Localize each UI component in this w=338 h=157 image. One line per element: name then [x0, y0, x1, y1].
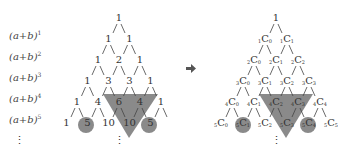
- combination-r1-k1: 1C1: [280, 34, 294, 45]
- combination-r5-k5: 5C5: [324, 118, 338, 129]
- pascal-entry-r0-k0: 1: [116, 13, 122, 23]
- combination-r4-k4: 4C4: [313, 97, 327, 108]
- pascal-entry-r2-k0: 1: [95, 55, 101, 65]
- pascal-entry-r5-k3: 10: [123, 118, 136, 128]
- combination-r2-k2: 2C2: [291, 55, 305, 66]
- pascal-entry-r4-k3: 4: [137, 97, 143, 107]
- combination-r4-k1: 4C1: [247, 97, 261, 108]
- pascal-entry-r4-k0: 1: [74, 97, 80, 107]
- pascal-entry-r5-k4: 5: [147, 118, 153, 128]
- pascal-entry-r2-k1: 2: [116, 55, 122, 65]
- pascal-entry-r3-k1: 3: [105, 76, 111, 86]
- combination-r2-k0: 2C0: [247, 55, 261, 66]
- combination-r3-k3: 3C3: [302, 76, 316, 87]
- combination-r3-k2: 3C2: [280, 76, 294, 87]
- combination-r4-k2: 4C2: [269, 97, 283, 108]
- pascal-entry-r4-k2: 6: [116, 97, 122, 107]
- pascal-entry-r3-k3: 1: [147, 76, 153, 86]
- pascal-entry-r4-k4: 1: [158, 97, 164, 107]
- pascal-entry-r4-k1: 4: [95, 97, 101, 107]
- ellipsis-right: ⋮: [271, 136, 282, 146]
- expansion-label-1: (a+b)1: [9, 29, 41, 41]
- ellipsis-left: ⋮: [114, 136, 125, 146]
- combination-r4-k3: 4C3: [291, 97, 305, 108]
- combination-r2-k1: 2C1: [269, 55, 283, 66]
- combination-r5-k2: 5C2: [258, 118, 272, 129]
- combination-r5-k4: 5C4: [302, 118, 316, 129]
- pascal-entry-r5-k0: 1: [63, 118, 69, 128]
- pascal-entry-r3-k2: 3: [126, 76, 132, 86]
- combination-r5-k1: 5C1: [236, 118, 250, 129]
- combination-r5-k3: 5C3: [280, 118, 294, 129]
- pascal-entry-r1-k1: 1: [126, 34, 132, 44]
- combination-r4-k0: 4C0: [225, 97, 239, 108]
- combination-r5-k0: 5C0: [214, 118, 228, 129]
- expansion-label-2: (a+b)2: [9, 50, 41, 62]
- combination-r1-k0: 1C0: [258, 34, 272, 45]
- expansion-label-3: (a+b)3: [9, 71, 41, 83]
- arrow-right-icon: [186, 64, 196, 73]
- expansion-label-4: (a+b)4: [9, 92, 41, 104]
- pascal-entry-r5-k1: 5: [84, 118, 90, 128]
- pascal-entry-r3-k0: 1: [84, 76, 90, 86]
- combination-r3-k1: 3C1: [258, 76, 272, 87]
- combination-r3-k0: 3C0: [236, 76, 250, 87]
- combination-r0-k0: 1: [273, 13, 279, 23]
- pascal-entry-r5-k2: 10: [102, 118, 115, 128]
- pascal-entry-r1-k0: 1: [105, 34, 111, 44]
- expansion-label-5: (a+b)5: [9, 113, 41, 125]
- ellipsis-labels: ⋮: [14, 136, 25, 146]
- pascal-entry-r2-k2: 1: [137, 55, 143, 65]
